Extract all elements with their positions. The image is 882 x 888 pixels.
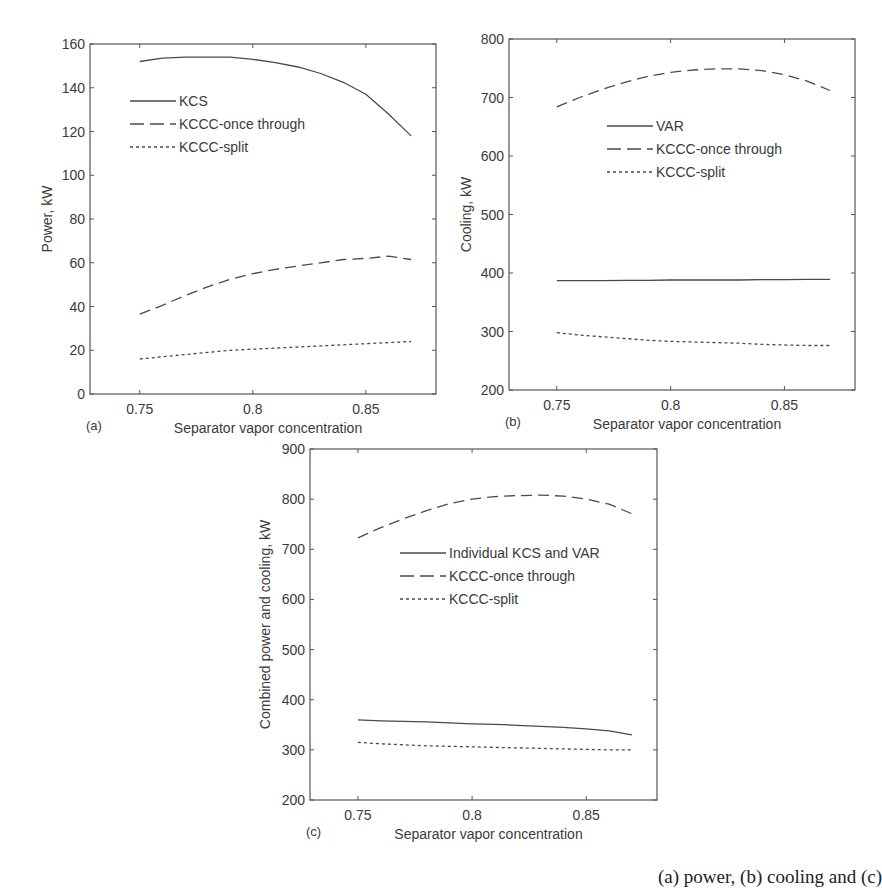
legend: KCSKCCC-once throughKCCC-split [130,93,305,155]
plot-frame [90,44,436,394]
y-tick-label: 400 [282,692,306,708]
legend-label: KCCC-split [656,164,725,180]
y-tick-label: 200 [282,792,306,808]
chart-b: 2003004005006007008000.750.80.85Separato… [458,31,855,432]
legend: VARKCCC-once throughKCCC-split [607,118,782,180]
y-tick-label: 600 [481,148,505,164]
plot-frame [509,39,855,390]
x-tick-label: 0.85 [573,807,600,823]
legend-label: KCCC-once through [656,141,782,157]
y-tick-label: 500 [481,207,505,223]
y-tick-label: 80 [69,211,85,227]
series-kccc-once-through [358,495,632,538]
y-tick-label: 120 [62,124,86,140]
x-tick-label: 0.75 [126,401,153,417]
y-tick-label: 200 [481,382,505,398]
panel-label: (c) [306,824,321,839]
y-tick-label: 700 [282,541,306,557]
x-tick-label: 0.8 [661,397,681,413]
x-tick-label: 0.75 [543,397,570,413]
y-tick-label: 300 [481,324,505,340]
legend: Individual KCS and VARKCCC-once throughK… [400,545,600,607]
series-individual-kcs-and-var [358,720,632,735]
y-tick-label: 500 [282,642,306,658]
chart-c: 2003004005006007008009000.750.80.85Separ… [257,441,657,842]
y-axis-label: Power, kW [39,185,55,253]
legend-label: VAR [656,118,684,134]
chart-a: 0204060801001201401600.750.80.85Separato… [39,36,436,436]
y-tick-label: 400 [481,265,505,281]
y-tick-label: 60 [69,255,85,271]
x-tick-label: 0.85 [352,401,379,417]
legend-label: KCCC-once through [449,568,575,584]
x-tick-label: 0.85 [771,397,798,413]
x-tick-label: 0.75 [344,807,371,823]
y-tick-label: 140 [62,80,86,96]
series-var [557,279,830,280]
x-axis-label: Separator vapor concentration [593,416,781,432]
y-tick-label: 700 [481,90,505,106]
series-kccc-once-through [140,256,411,314]
series-kccc-split [140,342,411,360]
y-tick-label: 800 [282,491,306,507]
legend-label: KCCC-once through [179,116,305,132]
panel-label: (a) [86,418,102,433]
x-axis-label: Separator vapor concentration [394,826,582,842]
y-tick-label: 600 [282,591,306,607]
y-tick-label: 900 [282,441,306,457]
y-tick-label: 100 [62,167,86,183]
series-kccc-once-through [557,69,830,107]
legend-label: KCCC-split [179,139,248,155]
series-kccc-split [557,333,830,346]
y-tick-label: 300 [282,742,306,758]
plot-frame [310,449,657,800]
x-tick-label: 0.8 [243,401,263,417]
y-tick-label: 800 [481,31,505,47]
y-tick-label: 40 [69,299,85,315]
legend-label: KCS [179,93,208,109]
y-tick-label: 20 [69,342,85,358]
series-kccc-split [358,742,632,750]
legend-label: Individual KCS and VAR [449,545,600,561]
y-axis-label: Combined power and cooling, kW [257,519,273,729]
panel-label: (b) [505,414,521,429]
y-tick-label: 0 [77,386,85,402]
x-tick-label: 0.8 [462,807,482,823]
figure-caption-fragment: (a) power, (b) cooling and (c) [0,866,882,888]
y-tick-label: 160 [62,36,86,52]
x-axis-label: Separator vapor concentration [174,420,362,436]
legend-label: KCCC-split [449,591,518,607]
y-axis-label: Cooling, kW [458,176,474,252]
